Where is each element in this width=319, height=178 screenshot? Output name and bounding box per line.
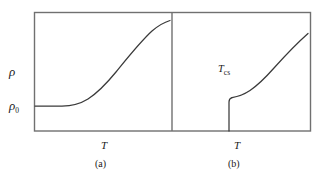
residual-resistivity-label: ρ0 (9, 99, 19, 112)
panel-caption-b: (b) (228, 159, 240, 169)
figure-container: ρ ρ0 Tcs T (a) T (b) (0, 0, 319, 178)
tcs-subscript: cs (224, 68, 231, 77)
panel-caption-a: (a) (95, 159, 106, 169)
x-axis-label-b: T (234, 140, 240, 151)
y-axis-label-rho: ρ (9, 65, 15, 78)
plot-canvas (0, 0, 319, 178)
curve-superconductor-normal-state (232, 34, 308, 98)
transition-temperature-label: Tcs (218, 64, 231, 75)
rho-subscript: 0 (15, 106, 19, 115)
x-axis-label-a: T (101, 140, 107, 151)
tcs-symbol: T (218, 63, 224, 74)
curve-superconductor-transition (229, 98, 232, 131)
curve-normal-metal (35, 21, 170, 107)
